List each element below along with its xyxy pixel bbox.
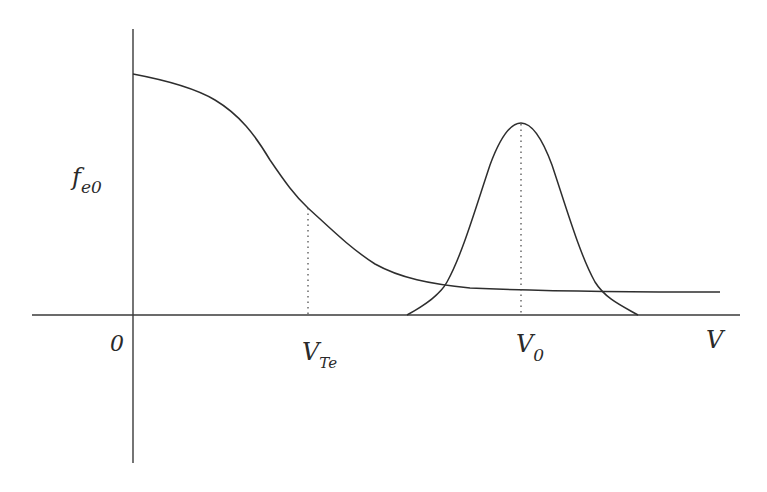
x-axis-label: V [706,326,726,354]
v0-label: V0 [516,330,544,365]
distribution-function-diagram: fe0 0 VTe V0 V [0,0,767,492]
vte-label: VTe [302,338,337,372]
y-axis-label: fe0 [70,163,102,197]
origin-label: 0 [110,331,124,356]
beam-gaussian-curve [407,123,638,315]
background-distribution-curve [133,74,720,292]
